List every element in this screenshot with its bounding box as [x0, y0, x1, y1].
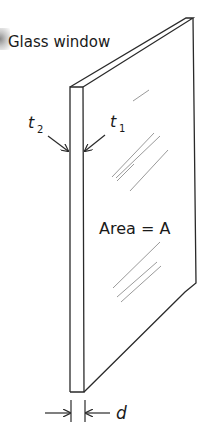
title-label: Glass window	[8, 33, 110, 51]
thickness-dimension	[45, 400, 110, 422]
glass-window-diagram: Glass window t 2 t 1 Area = A	[0, 0, 210, 436]
area-label: Area = A	[99, 219, 170, 238]
thickness-label: d	[116, 403, 127, 423]
surface-t2: t 2	[28, 113, 68, 151]
surface-t1: t 1	[85, 112, 125, 151]
t2-arrow	[48, 136, 68, 151]
pane-edge-strip	[70, 87, 84, 392]
t1-label-subscript: 1	[119, 123, 125, 134]
t2-label-base: t	[28, 113, 35, 132]
t2-label-subscript: 2	[37, 124, 43, 135]
t1-arrow	[85, 135, 105, 151]
glass-pane	[70, 18, 196, 392]
pane-top-face	[70, 18, 193, 87]
glare-lines	[112, 90, 168, 302]
pane-face-outline	[84, 18, 196, 392]
t1-label-base: t	[110, 112, 117, 131]
